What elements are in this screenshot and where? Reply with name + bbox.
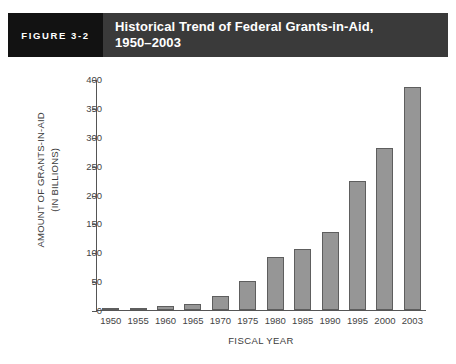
bar-2003 <box>404 87 421 310</box>
x-axis-tick-label: 2000 <box>371 315 398 326</box>
bar-1965 <box>184 304 201 310</box>
x-axis-tick-labels: 1950195519601965197019751980198519901995… <box>97 315 426 326</box>
bar-1980 <box>267 257 284 310</box>
y-axis-title-line-1: AMOUNT OF GRANTS-IN-AID <box>34 70 48 290</box>
bar-slot <box>97 80 124 310</box>
bar-1960 <box>157 306 174 310</box>
x-axis-tick-label: 1965 <box>179 315 206 326</box>
bar-slot <box>234 80 261 310</box>
bar-chart-figure: AMOUNT OF GRANTS-IN-AID (IN BILLIONS) 05… <box>0 62 456 364</box>
bar-slot <box>207 80 234 310</box>
x-axis-tick-label: 1970 <box>207 315 234 326</box>
x-axis-line <box>96 310 426 311</box>
bar-1955 <box>130 308 147 310</box>
figure-title-line-2: 1950–2003 <box>115 35 373 51</box>
figure-header-banner: FIGURE 3-2 Historical Trend of Federal G… <box>8 13 448 57</box>
figure-title-box: Historical Trend of Federal Grants-in-Ai… <box>103 13 448 57</box>
y-axis-tick-mark <box>92 311 97 312</box>
bar-slot <box>289 80 316 310</box>
x-axis-tick-label: 1980 <box>262 315 289 326</box>
bar-slot <box>179 80 206 310</box>
bar-1975 <box>239 281 256 310</box>
figure-number-label: FIGURE 3-2 <box>21 30 89 41</box>
x-axis-tick-label: 1990 <box>316 315 343 326</box>
bar-slot <box>316 80 343 310</box>
x-axis-tick-label: 1985 <box>289 315 316 326</box>
y-axis-title: AMOUNT OF GRANTS-IN-AID (IN BILLIONS) <box>34 70 62 290</box>
bar-slot <box>124 80 151 310</box>
figure-title-line-1: Historical Trend of Federal Grants-in-Ai… <box>115 19 373 35</box>
bars-container <box>97 80 426 310</box>
x-axis-tick-label: 2003 <box>399 315 426 326</box>
x-axis-tick-label: 1955 <box>124 315 151 326</box>
bar-slot <box>262 80 289 310</box>
x-axis-tick-label: 1975 <box>234 315 261 326</box>
bar-slot <box>344 80 371 310</box>
figure-title: Historical Trend of Federal Grants-in-Ai… <box>115 19 373 51</box>
plot-area: 050100150200250300350400 <box>96 80 426 311</box>
x-axis-title: FISCAL YEAR <box>96 335 426 346</box>
bar-2000 <box>376 148 393 310</box>
bar-slot <box>399 80 426 310</box>
bar-1950 <box>102 308 119 310</box>
figure-number-box: FIGURE 3-2 <box>8 13 103 57</box>
x-axis-tick-label: 1995 <box>344 315 371 326</box>
bar-1985 <box>294 249 311 310</box>
x-axis-tick-label: 1960 <box>152 315 179 326</box>
bar-1995 <box>349 181 366 310</box>
bar-slot <box>152 80 179 310</box>
bar-1990 <box>322 232 339 310</box>
bar-1970 <box>212 296 229 310</box>
x-axis-tick-label: 1950 <box>97 315 124 326</box>
bar-slot <box>371 80 398 310</box>
